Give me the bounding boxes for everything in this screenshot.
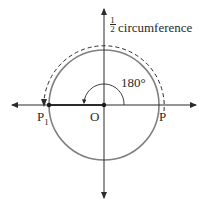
point-p1 (47, 103, 51, 107)
fraction-one-half: 1 2 (109, 16, 116, 33)
point-origin (102, 103, 106, 107)
arc-arrowhead-icon (41, 99, 47, 107)
angle-label: 180° (121, 75, 146, 91)
circumference-label: circumference (118, 20, 192, 36)
origin-label: O (90, 109, 99, 125)
fraction-denominator: 2 (110, 24, 115, 34)
point-p1-subscript: 1 (44, 117, 49, 127)
point-p1-label: P1 (37, 109, 49, 127)
point-p-label: P (159, 109, 166, 125)
